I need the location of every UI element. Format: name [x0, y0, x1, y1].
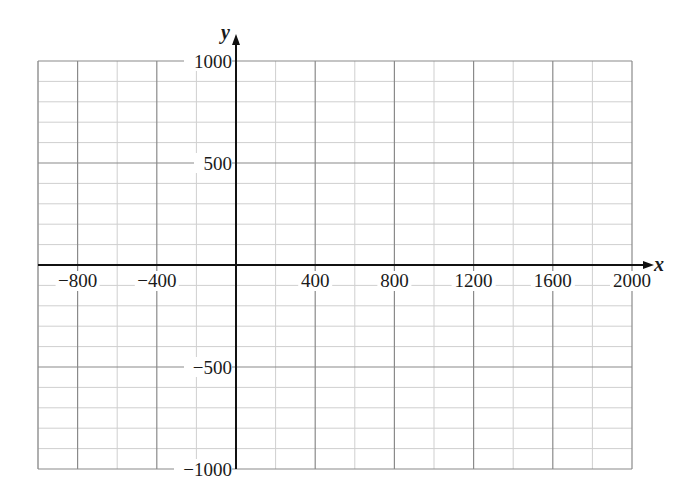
x-tick-label: 1200	[455, 270, 493, 291]
y-axis-arrow-icon	[232, 34, 240, 45]
x-tick-label: −400	[137, 270, 176, 291]
coordinate-grid: xy−800−4004008001200160020001000500−500−…	[0, 0, 699, 496]
y-tick-label: 500	[204, 153, 233, 174]
x-tick-label: 1600	[534, 270, 572, 291]
x-tick-label: 400	[301, 270, 330, 291]
x-axis-arrow-icon	[643, 261, 654, 269]
y-tick-label: 1000	[194, 51, 232, 72]
axes	[38, 34, 654, 469]
x-tick-label: −800	[58, 270, 97, 291]
x-tick-label: 2000	[613, 270, 651, 291]
x-tick-label: 800	[380, 270, 409, 291]
y-tick-label: −1000	[183, 459, 232, 480]
x-axis-label: x	[653, 253, 664, 275]
tick-labels: xy−800−4004008001200160020001000500−500−…	[58, 21, 664, 480]
y-tick-label: −500	[193, 357, 232, 378]
y-axis-label: y	[219, 21, 230, 44]
